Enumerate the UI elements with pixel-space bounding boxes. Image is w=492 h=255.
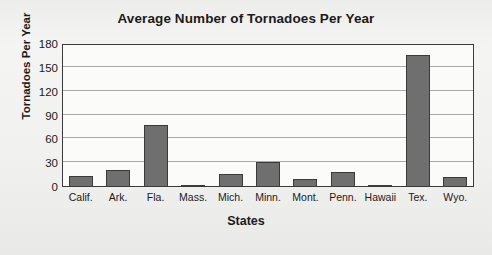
y-axis-tick-label: 30 <box>4 157 58 169</box>
x-axis-title: States <box>0 214 492 228</box>
y-axis-tick-label: 150 <box>4 62 58 74</box>
bar[interactable] <box>406 55 430 187</box>
bar-slot <box>249 44 286 187</box>
x-axis-tick-label: Mich. <box>218 191 243 203</box>
x-axis-tick-label: Hawaii <box>365 191 397 203</box>
x-axis-tick-label: Ark. <box>109 191 128 203</box>
bar-slot <box>212 44 249 187</box>
x-axis-tick-label: Tex. <box>408 191 427 203</box>
x-axis-tick-label: Wyo. <box>443 191 467 203</box>
chart-page: Average Number of Tornadoes Per Year Tor… <box>0 0 492 255</box>
bar[interactable] <box>69 176 93 187</box>
x-axis-tick-label: Mont. <box>292 191 318 203</box>
y-axis-tick-label: 90 <box>4 110 58 122</box>
bar-slot <box>287 44 324 187</box>
x-axis-tick-label: Penn. <box>329 191 356 203</box>
x-axis-tick-label: Calif. <box>69 191 93 203</box>
bar[interactable] <box>368 185 392 187</box>
bar-slot <box>99 44 136 187</box>
bar-slot <box>137 44 174 187</box>
bar-slot <box>437 44 474 187</box>
bar-slot <box>324 44 361 187</box>
bar[interactable] <box>106 170 130 187</box>
y-axis-tick-label: 60 <box>4 133 58 145</box>
bar-slot <box>362 44 399 187</box>
x-axis-tick-label: Mass. <box>179 191 207 203</box>
bar-slot <box>62 44 99 187</box>
bar-series <box>62 44 474 187</box>
bar[interactable] <box>219 174 243 187</box>
chart-title: Average Number of Tornadoes Per Year <box>0 11 492 26</box>
y-axis-tick-labels: 0306090120150180 <box>0 44 58 187</box>
x-axis-tick-label: Fla. <box>147 191 165 203</box>
y-axis-tick-label: 120 <box>4 86 58 98</box>
bar[interactable] <box>256 162 280 187</box>
y-axis-tick-label: 180 <box>4 38 58 50</box>
bar[interactable] <box>443 177 467 187</box>
bar-slot <box>399 44 436 187</box>
x-axis-tick-label: Minn. <box>255 191 281 203</box>
bar[interactable] <box>144 125 168 187</box>
x-axis-tick-labels: Calif.Ark.Fla.Mass.Mich.Minn.Mont.Penn.H… <box>62 191 474 207</box>
bar-slot <box>174 44 211 187</box>
bar[interactable] <box>181 185 205 187</box>
y-axis-tick-label: 0 <box>4 181 58 193</box>
bar[interactable] <box>331 172 355 187</box>
bar[interactable] <box>293 179 317 187</box>
